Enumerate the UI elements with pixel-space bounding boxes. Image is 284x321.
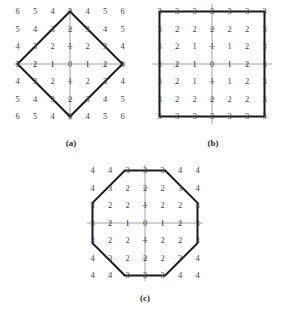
- grid-value: 1: [206, 77, 218, 86]
- grid-value: 3: [29, 42, 41, 51]
- grid-value: 2: [189, 95, 201, 104]
- grid-value: 1: [189, 60, 201, 69]
- figure-caption-c: (c): [60, 293, 230, 303]
- grid-value: 3: [117, 60, 129, 69]
- grid-value: 4: [99, 95, 111, 104]
- distance-grid-a: 6543456543234543212343210123432123454323…: [0, 0, 142, 138]
- grid-value: 3: [99, 42, 111, 51]
- grid-value: 4: [29, 25, 41, 34]
- grid-value: 3: [87, 201, 99, 210]
- grid-value: 2: [189, 25, 201, 34]
- grid-value: 2: [104, 236, 116, 245]
- grid-value: 3: [157, 166, 169, 175]
- figure-caption-a: (a): [0, 138, 142, 148]
- grid-value: 2: [157, 201, 169, 210]
- grid-value: 5: [99, 112, 111, 121]
- grid-value: 4: [174, 166, 186, 175]
- grid-value: 2: [241, 42, 253, 51]
- grid-value: 3: [154, 7, 166, 16]
- grid-value: 3: [104, 254, 116, 263]
- grid-value: 1: [224, 60, 236, 69]
- grid-value: 4: [104, 166, 116, 175]
- grid-value: 3: [82, 25, 94, 34]
- grid-value: 2: [174, 219, 186, 228]
- grid-value: 4: [99, 25, 111, 34]
- grid-value: 3: [104, 184, 116, 193]
- grid-value: 2: [157, 236, 169, 245]
- grid-value: 6: [117, 112, 129, 121]
- grid-value: 2: [82, 42, 94, 51]
- grid-value: 3: [139, 271, 151, 280]
- grid-value: 2: [174, 201, 186, 210]
- grid-value: 3: [12, 60, 24, 69]
- grid-value: 3: [174, 254, 186, 263]
- grid-value: 3: [157, 271, 169, 280]
- figure-panel-a: 6543456543234543212343210123432123454323…: [0, 0, 142, 160]
- grid-value: 2: [82, 77, 94, 86]
- grid-value: 1: [47, 60, 59, 69]
- grid-value: 2: [171, 25, 183, 34]
- grid-value: 3: [154, 77, 166, 86]
- grid-value: 3: [259, 77, 271, 86]
- grid-value: 4: [192, 184, 204, 193]
- grid-value: 1: [224, 77, 236, 86]
- grid-value: 5: [117, 25, 129, 34]
- figure-panel-c: 4433344432223432212233210123322122343222…: [60, 160, 230, 321]
- grid-value: 3: [259, 42, 271, 51]
- grid-value: 5: [29, 7, 41, 16]
- grid-value: 2: [99, 60, 111, 69]
- grid-value: 3: [154, 95, 166, 104]
- grid-value: 2: [122, 254, 134, 263]
- grid-value: 6: [12, 7, 24, 16]
- grid-value: 1: [82, 60, 94, 69]
- grid-value: 1: [189, 42, 201, 51]
- grid-value: 3: [171, 7, 183, 16]
- grid-value: 1: [139, 201, 151, 210]
- grid-value: 4: [87, 184, 99, 193]
- grid-value: 4: [12, 77, 24, 86]
- grid-value: 3: [206, 7, 218, 16]
- grid-value: 6: [117, 7, 129, 16]
- grid-value: 1: [64, 42, 76, 51]
- grid-value: 2: [47, 77, 59, 86]
- grid-value: 2: [64, 95, 76, 104]
- grid-value: 4: [47, 7, 59, 16]
- grid-value: 5: [12, 95, 24, 104]
- grid-value: 2: [157, 184, 169, 193]
- grid-value: 4: [47, 112, 59, 121]
- grid-value: 5: [117, 95, 129, 104]
- grid-value: 4: [192, 254, 204, 263]
- grid-value: 3: [189, 112, 201, 121]
- grid-value: 3: [47, 95, 59, 104]
- grid-value: 2: [139, 254, 151, 263]
- grid-value: 2: [206, 95, 218, 104]
- grid-value: 4: [82, 7, 94, 16]
- grid-value: 4: [104, 271, 116, 280]
- grid-value: 2: [241, 25, 253, 34]
- grid-value: 0: [139, 219, 151, 228]
- grid-value: 3: [259, 95, 271, 104]
- grid-value: 2: [241, 60, 253, 69]
- grid-value: 1: [64, 77, 76, 86]
- grid-value: 3: [47, 25, 59, 34]
- grid-value: 5: [29, 112, 41, 121]
- grid-value: 3: [189, 7, 201, 16]
- grid-value: 3: [154, 42, 166, 51]
- grid-value: 1: [139, 236, 151, 245]
- figure-panel-b: 3333333322222332111233210123321112332222…: [142, 0, 284, 160]
- grid-value: 3: [224, 112, 236, 121]
- grid-value: 0: [64, 60, 76, 69]
- grid-value: 3: [139, 166, 151, 175]
- grid-value: 4: [87, 166, 99, 175]
- grid-value: 2: [29, 60, 41, 69]
- grid-value: 3: [87, 219, 99, 228]
- grid-value: 3: [259, 60, 271, 69]
- grid-value: 4: [82, 112, 94, 121]
- grid-value: 2: [122, 201, 134, 210]
- grid-value: 3: [64, 112, 76, 121]
- grid-value: 0: [206, 60, 218, 69]
- grid-value: 3: [122, 166, 134, 175]
- grid-value: 2: [171, 77, 183, 86]
- grid-value: 4: [117, 77, 129, 86]
- grid-value: 2: [64, 25, 76, 34]
